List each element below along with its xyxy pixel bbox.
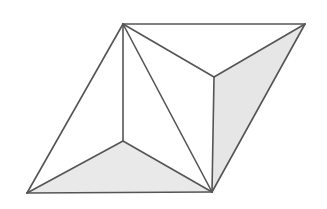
polyhedron-drawing	[0, 0, 327, 209]
edge-bottom	[27, 192, 212, 193]
figure-canvas	[0, 0, 327, 209]
